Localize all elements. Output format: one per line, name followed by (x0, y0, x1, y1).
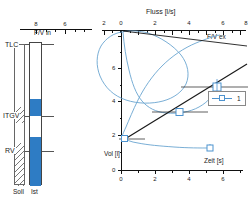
data-point-1[interactable] (119, 136, 145, 142)
scale-tick-minor (55, 29, 56, 32)
row-label-rv: RV (4, 147, 16, 154)
data-point-2[interactable] (152, 109, 208, 116)
column-header-ist: Ist (31, 188, 38, 195)
legend-label-1: 1 (237, 95, 241, 102)
flow-volume-chart: 2 0 2 4 6 8 Fluss [l/s] F/V ex 6 4 2 0 V… (100, 0, 248, 201)
volume-time-curve (122, 35, 220, 148)
scale-tick-minor (84, 29, 85, 32)
scale-tick-6 (65, 29, 66, 34)
scale-tick-minor (75, 29, 76, 32)
ist-segment-rv (30, 137, 41, 186)
data-point-4[interactable] (207, 145, 213, 151)
scale-baseline (20, 29, 92, 30)
ist-bar (29, 42, 42, 185)
legend-square-marker-icon (219, 95, 225, 101)
volume-bar-panel: 8 6 F/V in TLC ITGV RV Soll Ist (0, 0, 100, 201)
row-label-tlc: TLC (4, 41, 19, 48)
upper-boundary-line (123, 31, 247, 46)
column-header-soll: Soll (13, 188, 24, 195)
fv-in-scale: 8 6 (20, 22, 92, 36)
chart-legend[interactable]: 1 (208, 91, 246, 106)
soll-hatch-rv (15, 143, 24, 186)
scale-label-8: 8 (34, 21, 37, 27)
fv-in-label: F/V in (34, 30, 51, 37)
scale-label-6: 6 (63, 21, 66, 27)
row-label-itgv: ITGV (2, 112, 20, 119)
ist-segment-itgv (30, 99, 41, 116)
lung-function-report: 8 6 F/V in TLC ITGV RV Soll Ist (0, 0, 248, 201)
